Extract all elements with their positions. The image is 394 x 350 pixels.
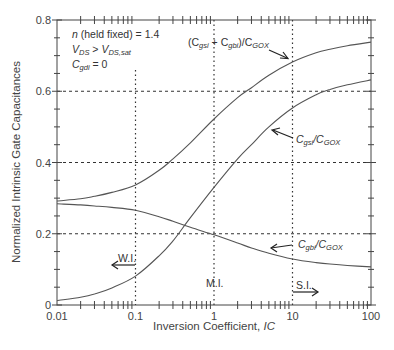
arrow-icon	[272, 128, 293, 138]
x-tick-label: 100	[362, 310, 380, 322]
capacitance-chart: 0.010.111010000.20.40.60.8 Inversion Coe…	[0, 0, 394, 350]
arrow-icon	[269, 50, 288, 59]
label-sum-curve: (Cgsi + Cgbi)/CGOX	[188, 36, 270, 50]
label-cgs-curve: Cgsi/CGOX	[296, 133, 341, 147]
y-tick-label: 0.2	[36, 228, 51, 240]
y-tick-label: 0.4	[36, 157, 51, 169]
annotation-vds: VDS > VDS,sat	[72, 43, 132, 57]
arrow-icon	[271, 244, 292, 252]
y-tick-label: 0.8	[36, 14, 51, 26]
label-moderate-inversion: M.I.	[206, 277, 224, 289]
label-strong-inversion: S.I.	[296, 279, 312, 291]
tick-labels: 0.010.111010000.20.40.60.8	[36, 14, 380, 322]
label-cgb-curve: Cgbi/CGOX	[298, 238, 344, 252]
y-tick-label: 0.6	[36, 85, 51, 97]
curve-cgbi-cgox	[57, 204, 371, 267]
x-tick-label: 10	[286, 310, 298, 322]
y-axis-title: Normalized Intrinsic Gate Capacitances	[10, 61, 22, 263]
annotation-cgdi: Cgdi = 0	[72, 58, 108, 72]
annotation-n-fixed: n (held fixed) = 1.4	[72, 28, 159, 40]
label-weak-inversion: W.I.	[118, 252, 136, 264]
y-tick-label: 0	[45, 299, 51, 311]
x-axis-title: Inversion Coefficient, IC	[153, 320, 276, 332]
data-curves	[57, 42, 371, 301]
x-tick-label: 0.01	[46, 310, 67, 322]
x-tick-label: 0.1	[128, 310, 143, 322]
